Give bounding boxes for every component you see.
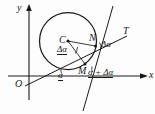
diagram-canvas <box>0 0 155 114</box>
y-axis <box>26 4 32 100</box>
point-c-dot <box>66 39 69 42</box>
angle-label-delta-alpha-tangent: Δα <box>101 40 111 49</box>
point-n-dot <box>94 45 97 48</box>
angle-label-alpha-plus-delta-alpha: α + Δα <box>88 68 113 78</box>
point-label-n: N <box>89 33 96 43</box>
tangent-line <box>25 36 127 86</box>
angle-label-alpha: α <box>58 71 63 81</box>
angle-label-delta-alpha-center: Δα <box>57 45 67 55</box>
point-label-m: M <box>78 66 86 76</box>
tangent-label-t: T <box>123 26 129 36</box>
x-axis-label: x <box>149 70 153 80</box>
geometry-figure: y x O C N M T Δα Δα α α + Δα <box>0 0 155 114</box>
origin-label: O <box>15 79 22 89</box>
secant-line <box>83 6 113 111</box>
y-axis-label: y <box>17 3 21 13</box>
